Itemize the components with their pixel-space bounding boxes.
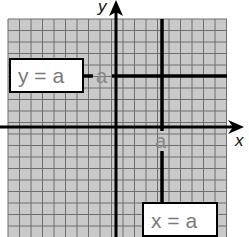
- x-equals-a-label: x = a: [151, 209, 197, 232]
- x-intercept-label: a: [155, 130, 167, 152]
- y-axis-label: y: [97, 0, 108, 16]
- y-intercept-label: a: [96, 65, 108, 87]
- y-equals-a-label: y = a: [18, 64, 64, 87]
- coordinate-diagram: y x a a y = a x = a: [0, 0, 249, 237]
- x-axis-label: x: [234, 131, 244, 150]
